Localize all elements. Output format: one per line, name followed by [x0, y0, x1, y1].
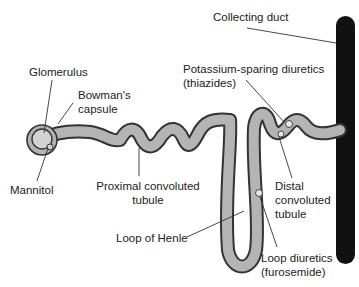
- label-loop-diuretics-line1: Loop diuretics: [261, 251, 333, 265]
- collecting-duct: [336, 16, 355, 264]
- label-dct-line2: convoluted: [275, 193, 331, 207]
- label-loop-of-henle: Loop of Henle: [116, 231, 188, 245]
- label-bowmans-capsule-line2: capsule: [78, 102, 131, 116]
- label-potassium-line2: (thiazides): [183, 76, 324, 90]
- label-loop-diuretics-line2: (furosemide): [261, 265, 333, 279]
- loop-diuretic-site-marker: [256, 190, 263, 197]
- label-potassium-sparing-diuretics: Potassium-sparing diuretics (thiazides): [183, 62, 324, 90]
- label-bowmans-capsule-line1: Bowman's: [78, 88, 131, 102]
- thiazide-site-marker-2: [278, 131, 284, 137]
- leader-loop-of-henle: [187, 211, 244, 237]
- nephron-diagram: Collecting duct Glomerulus Bowman's caps…: [0, 0, 359, 287]
- label-dct-line3: tubule: [275, 207, 331, 221]
- label-dct-line1: Distal: [275, 179, 331, 193]
- label-loop-diuretics: Loop diuretics (furosemide): [261, 251, 333, 279]
- label-collecting-duct: Collecting duct: [213, 10, 288, 24]
- label-pct-line2: tubule: [88, 193, 208, 207]
- label-pct-line1: Proximal convoluted: [88, 179, 208, 193]
- label-bowmans-capsule: Bowman's capsule: [78, 88, 131, 116]
- leader-dct: [279, 137, 292, 178]
- thiazide-site-marker-1: [286, 121, 293, 128]
- label-potassium-line1: Potassium-sparing diuretics: [183, 62, 324, 76]
- label-distal-convoluted-tubule: Distal convoluted tubule: [275, 179, 331, 221]
- label-mannitol: Mannitol: [10, 183, 53, 197]
- leader-bowmans-capsule: [58, 103, 73, 124]
- leader-collecting-duct: [247, 28, 336, 43]
- label-proximal-convoluted-tubule: Proximal convoluted tubule: [88, 179, 208, 207]
- leader-glomerulus: [44, 80, 52, 133]
- label-glomerulus: Glomerulus: [29, 65, 88, 79]
